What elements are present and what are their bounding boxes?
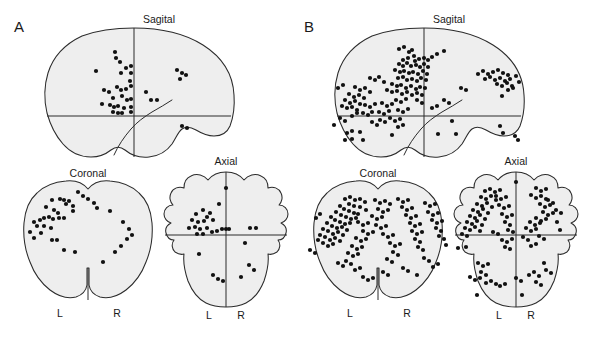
- activation-dot: [379, 226, 383, 230]
- activation-dot: [555, 220, 559, 224]
- activation-dot: [396, 108, 400, 112]
- activation-dot: [406, 269, 410, 273]
- activation-dot: [404, 213, 408, 217]
- activation-dot: [129, 97, 133, 101]
- activation-dot: [415, 232, 419, 236]
- activation-dot: [418, 85, 422, 89]
- activation-dot: [500, 212, 504, 216]
- activation-dot: [428, 204, 432, 208]
- activation-dot: [375, 123, 379, 127]
- activation-dot: [475, 293, 479, 297]
- activation-dot: [342, 207, 346, 211]
- activation-dot: [390, 133, 394, 137]
- activation-dot: [124, 66, 128, 70]
- activation-dot: [410, 229, 414, 233]
- activation-dot: [406, 56, 410, 60]
- activation-dot: [382, 80, 386, 84]
- activation-dot: [185, 126, 189, 130]
- activation-dot: [391, 233, 395, 237]
- activation-dot: [333, 218, 337, 222]
- activation-dot: [503, 282, 507, 286]
- activation-dot: [380, 101, 384, 105]
- activation-dot: [71, 204, 75, 208]
- activation-dot: [247, 263, 251, 267]
- activation-dot: [396, 253, 400, 257]
- activation-dot: [129, 105, 133, 109]
- activation-dot: [220, 227, 224, 231]
- activation-dot: [505, 215, 509, 219]
- activation-dot: [503, 220, 507, 224]
- activation-dot: [370, 214, 374, 218]
- activation-dot: [361, 223, 365, 227]
- activation-dot: [508, 77, 512, 81]
- activation-dot: [361, 229, 365, 233]
- activation-dot: [356, 220, 360, 224]
- activation-dot: [400, 205, 404, 209]
- activation-dot: [358, 197, 362, 201]
- activation-dot: [221, 279, 225, 283]
- activation-dot: [475, 202, 479, 206]
- activation-dot: [534, 242, 538, 246]
- activation-dot: [351, 254, 355, 258]
- activation-dot: [386, 235, 390, 239]
- activation-dot: [175, 68, 179, 72]
- activation-dot: [155, 98, 159, 102]
- activation-dot: [363, 86, 367, 90]
- activation-dot: [505, 81, 509, 85]
- activation-dot: [435, 221, 439, 225]
- activation-dot: [122, 106, 126, 110]
- activation-dot: [496, 232, 500, 236]
- activation-dot: [502, 206, 506, 210]
- activation-dot: [50, 198, 54, 202]
- activation-dot: [336, 230, 340, 234]
- activation-dot: [498, 124, 502, 128]
- activation-dot: [537, 234, 541, 238]
- activation-dot: [384, 224, 388, 228]
- activation-dot: [489, 194, 493, 198]
- activation-dot: [32, 236, 36, 240]
- activation-dot: [465, 234, 469, 238]
- activation-dot: [529, 193, 533, 197]
- activation-dot: [473, 278, 477, 282]
- activation-dot: [366, 232, 370, 236]
- activation-dot: [39, 231, 43, 235]
- activation-dot: [511, 230, 515, 234]
- activation-dot: [224, 186, 228, 190]
- activation-dot: [348, 221, 352, 225]
- activation-dot: [375, 217, 379, 221]
- activation-dot: [385, 257, 389, 261]
- activation-dot: [350, 114, 354, 118]
- activation-dot: [527, 273, 531, 277]
- activation-dot: [120, 111, 124, 115]
- activation-dot: [353, 99, 357, 103]
- activation-dot: [484, 197, 488, 201]
- activation-dot: [73, 250, 77, 254]
- activation-dot: [554, 208, 558, 212]
- activation-dot: [208, 211, 212, 215]
- activation-dot: [532, 270, 536, 274]
- activation-dot: [125, 237, 129, 241]
- activation-dot: [366, 278, 370, 282]
- activation-dot: [411, 70, 415, 74]
- activation-dot: [534, 216, 538, 220]
- activation-dot: [347, 209, 351, 213]
- activation-dot: [205, 226, 209, 230]
- activation-dot: [57, 216, 61, 220]
- activation-dot: [102, 88, 106, 92]
- activation-dot: [479, 270, 483, 274]
- activation-dot: [383, 199, 387, 203]
- activation-dot: [366, 221, 370, 225]
- activation-dot: [344, 215, 348, 219]
- activation-dot: [386, 273, 390, 277]
- activation-dot: [386, 208, 390, 212]
- activation-dot: [393, 244, 397, 248]
- activation-dot: [373, 198, 377, 202]
- activation-dot: [537, 274, 541, 278]
- activation-dot: [338, 220, 342, 224]
- activation-dot: [354, 216, 358, 220]
- activation-dot: [401, 110, 405, 114]
- activation-dot: [401, 266, 405, 270]
- activation-dot: [35, 224, 39, 228]
- activation-dot: [385, 104, 389, 108]
- activation-dot: [450, 119, 454, 123]
